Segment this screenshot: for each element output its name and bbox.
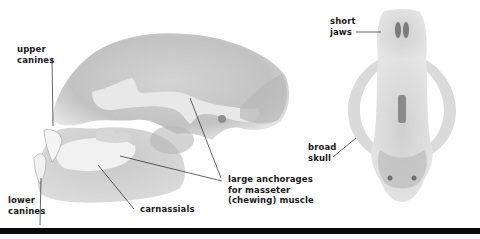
top-view-skull <box>348 9 456 202</box>
nasal-marking-right <box>403 22 409 38</box>
foramen <box>218 115 226 123</box>
foramen-right <box>412 176 417 181</box>
label-lower-canines: lower canines <box>8 195 45 216</box>
label-carnassials: carnassials <box>140 204 195 215</box>
label-masseter-anchorages: large anchorages for masseter (chewing) … <box>228 174 314 206</box>
label-upper-canines: upper canines <box>17 44 54 65</box>
label-short-jaws: short jaws <box>330 16 356 37</box>
skull-diagram: upper canines lower canines carnassials … <box>0 0 480 239</box>
leader-upper-canines <box>52 58 53 126</box>
label-broad-skull: broad skull <box>308 142 336 163</box>
leader-broad-skull <box>333 138 356 157</box>
cranium-shape <box>52 33 289 140</box>
snout-shape <box>377 9 427 60</box>
jaw-joint <box>150 126 194 154</box>
nasal-marking-left <box>395 22 401 38</box>
foramen-left <box>388 176 393 181</box>
sagittal-marking <box>398 95 406 123</box>
bottom-divider-bar <box>0 228 480 234</box>
